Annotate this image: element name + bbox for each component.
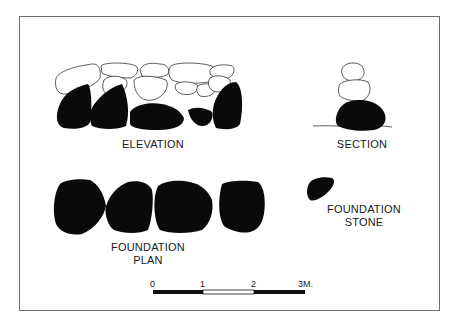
label-elevation: ELEVATION	[108, 138, 198, 151]
section-stones	[313, 63, 392, 131]
scale-bar	[153, 290, 305, 294]
label-foundation-stone-line2: STONE	[314, 216, 414, 229]
scale-tick-2: 2	[251, 279, 256, 289]
label-foundation-plan-line1: FOUNDATION	[98, 241, 198, 254]
stone-drawing	[0, 0, 457, 327]
foundation-plan-stones	[54, 179, 265, 234]
label-foundation-plan-line2: PLAN	[98, 254, 198, 267]
scale-tick-1: 1	[200, 279, 205, 289]
scale-tick-0: 0	[150, 279, 155, 289]
scale-tick-3: 3M.	[298, 279, 313, 289]
label-foundation-stone-line1: FOUNDATION	[314, 203, 414, 216]
label-section: SECTION	[322, 138, 402, 151]
foundation-stone	[307, 177, 334, 200]
